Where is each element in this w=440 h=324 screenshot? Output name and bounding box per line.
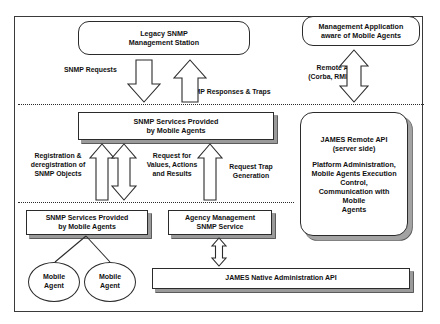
edge-label-snmp-requests: SNMP Requests [64,66,144,75]
node-snmp-services-bottom-label: SNMP Services Provided by Mobile Agents [46,214,129,232]
layer-divider-lower [18,202,294,203]
node-agency-management-snmp-service-label: Agency Management SNMP Service [185,214,255,232]
diagram-canvas: Legacy SNMP Management Station Managemen… [0,0,440,324]
node-mobile-agent-2-label: Mobile Agent [99,273,121,291]
node-james-native-administration-api-label: JAMES Native Administration API [225,274,337,283]
node-james-native-administration-api[interactable]: JAMES Native Administration API [152,268,410,289]
node-snmp-services-top-label: SNMP Services Provided by Mobile Agents [134,117,219,135]
node-management-application-label: Management Application aware of Mobile A… [319,22,404,40]
node-legacy-snmp-management-station-label: Legacy SNMP Management Station [129,29,199,47]
james-remote-api-subtitle: (server side) [333,144,376,153]
edge-label-request-values-actions: Request for Values, Actions and Results [134,152,210,179]
edge-label-registration-deregistration: Registration & deregistration of SNMP Ob… [20,152,96,179]
edge-label-remote-api: Remote API (Corba, RMI...) [291,64,355,82]
edge-label-request-trap-generation: Request Trap Generation [216,163,286,181]
node-management-application[interactable]: Management Application aware of Mobile A… [302,16,420,46]
node-legacy-snmp-management-station[interactable]: Legacy SNMP Management Station [78,21,250,55]
node-james-remote-api-panel[interactable]: JAMES Remote API (server side) Platform … [300,112,408,236]
layer-divider-upper [18,104,424,105]
node-agency-management-snmp-service[interactable]: Agency Management SNMP Service [168,210,272,235]
node-mobile-agent-1[interactable]: Mobile Agent [28,262,80,302]
james-remote-api-title: JAMES Remote API [321,135,388,144]
node-snmp-services-bottom[interactable]: SNMP Services Provided by Mobile Agents [26,210,148,235]
node-mobile-agent-1-label: Mobile Agent [43,273,65,291]
node-mobile-agent-2[interactable]: Mobile Agent [84,262,136,302]
james-remote-api-body: Platform Administration, Mobile Agents E… [307,160,401,214]
edge-label-snmp-responses-traps: SNMP Responses & Traps [185,88,295,97]
node-snmp-services-top[interactable]: SNMP Services Provided by Mobile Agents [78,112,274,140]
